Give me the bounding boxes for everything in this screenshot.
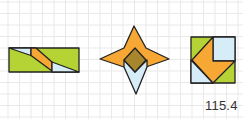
square-dissection xyxy=(191,37,235,83)
blue-top-right xyxy=(213,37,235,61)
figure-number-label: 115.4 xyxy=(205,98,238,113)
rectangle-dissection xyxy=(9,48,79,72)
